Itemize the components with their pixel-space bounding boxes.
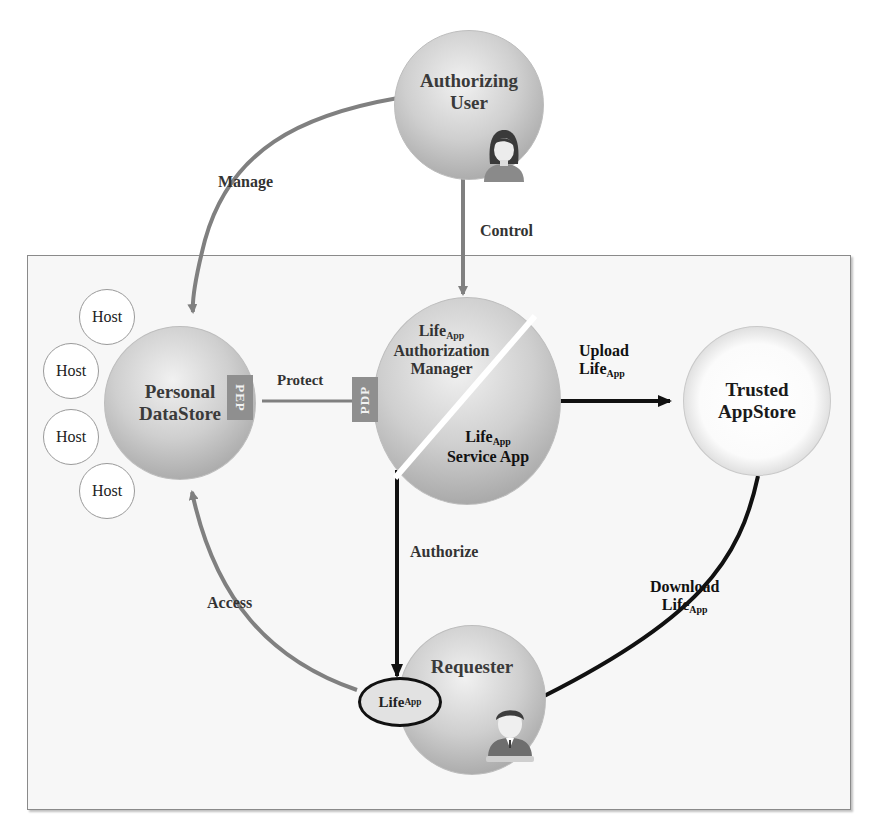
life-text: Life: [579, 360, 607, 377]
protect-label: Protect: [277, 372, 323, 389]
pep-tag[interactable]: PEP: [227, 375, 253, 420]
download-lifeapp-label: Download LifeApp: [650, 578, 719, 616]
access-edge: [192, 492, 357, 690]
host-label: Host: [92, 482, 122, 500]
host-node-2[interactable]: Host: [43, 343, 99, 399]
pdp-label: PDP: [357, 385, 373, 413]
life-text: Life: [662, 596, 690, 613]
manage-edge: [193, 98, 398, 312]
female-user-icon: [480, 124, 528, 184]
app-subscript: App: [493, 436, 511, 447]
host-label: Host: [92, 308, 122, 326]
authorize-label: Authorize: [410, 543, 478, 561]
upload-lifeapp-label: Upload LifeApp: [579, 342, 629, 380]
access-label: Access: [207, 594, 252, 612]
host-node-4[interactable]: Host: [79, 463, 135, 519]
host-label: Host: [56, 362, 86, 380]
male-user-icon: [482, 702, 538, 764]
control-label: Control: [480, 222, 533, 240]
pep-label: PEP: [232, 384, 248, 412]
requester-label: Requester: [431, 656, 513, 678]
trusted-appstore-label-2: AppStore: [718, 401, 796, 423]
host-node-3[interactable]: Host: [43, 409, 99, 465]
service-app-text: Service App: [433, 448, 543, 466]
authorization-manager-label: LifeApp Authorization Manager: [379, 322, 504, 378]
life-text: Life: [379, 694, 405, 711]
personal-datastore-label-2: DataStore: [139, 403, 221, 425]
trusted-appstore-node[interactable]: Trusted AppStore: [683, 326, 831, 476]
authorization-text: Authorization: [379, 342, 504, 360]
authorizing-user-label-1: Authorizing: [420, 70, 518, 92]
personal-datastore-label-1: Personal: [145, 381, 216, 403]
life-text: Life: [465, 428, 493, 445]
lifeapp-token-oval[interactable]: LifeApp: [358, 677, 442, 727]
trusted-appstore-label-1: Trusted: [726, 379, 789, 401]
app-subscript: App: [446, 330, 464, 341]
upload-text: Upload: [579, 342, 629, 360]
service-app-label: LifeApp Service App: [433, 428, 543, 466]
download-edge: [530, 476, 758, 703]
life-text: Life: [419, 322, 447, 339]
authorizing-user-label-2: User: [450, 92, 488, 114]
host-node-1[interactable]: Host: [79, 289, 135, 345]
manage-label: Manage: [218, 173, 273, 191]
pdp-tag[interactable]: PDP: [352, 377, 378, 422]
host-label: Host: [56, 428, 86, 446]
download-text: Download: [650, 578, 719, 596]
app-subscript: App: [607, 368, 625, 379]
diagram-canvas: Authorizing User Host Host Host Host Per…: [0, 0, 879, 837]
manager-text: Manager: [379, 360, 504, 378]
app-subscript: App: [404, 697, 421, 707]
app-subscript: App: [689, 604, 707, 615]
